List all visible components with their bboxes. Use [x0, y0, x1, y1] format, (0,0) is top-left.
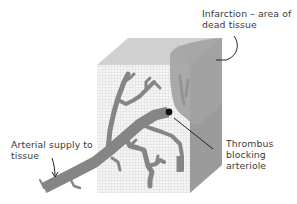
thrombus-label: Thrombus blocking arteriole: [226, 138, 296, 171]
thrombus-label-line-2: blocking: [226, 149, 296, 160]
thrombus-dot: [166, 109, 173, 116]
arterial-supply-label: Arterial supply to tissue: [11, 139, 101, 161]
thrombus-label-line-1: Thrombus: [226, 138, 296, 149]
arterial-label-line-2: tissue: [11, 150, 101, 161]
infarction-label-line-1: Infarction – area of: [202, 8, 297, 19]
thrombus-label-line-3: arteriole: [226, 160, 296, 171]
tissue-cube-diagram: [0, 0, 297, 204]
arterial-label-line-1: Arterial supply to: [11, 139, 101, 150]
infarction-label: Infarction – area of dead tissue: [202, 8, 297, 30]
infarction-label-line-2: dead tissue: [202, 19, 297, 30]
